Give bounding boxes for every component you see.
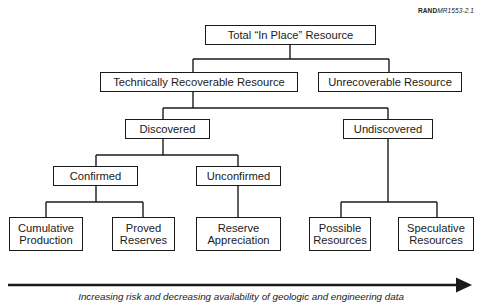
node-unconfirmed: Unconfirmed <box>196 166 281 186</box>
node-speculative-resources: Speculative Resources <box>398 217 474 251</box>
node-unrecoverable-resource: Unrecoverable Resource <box>318 72 462 92</box>
node-reserve-appreciation: Reserve Appreciation <box>196 217 281 251</box>
node-technically-recoverable-resource: Technically Recoverable Resource <box>100 72 298 92</box>
node-possible-resources: Possible Resources <box>309 217 371 251</box>
node-confirmed: Confirmed <box>53 166 138 186</box>
connector-lines <box>0 0 482 305</box>
node-undiscovered: Undiscovered <box>343 119 433 139</box>
node-total-in-place-resource: Total “In Place” Resource <box>205 25 376 45</box>
node-proved-reserves: Proved Reserves <box>112 217 175 251</box>
node-cumulative-production: Cumulative Production <box>9 217 83 251</box>
node-discovered: Discovered <box>125 119 210 139</box>
arrow-caption: Increasing risk and decreasing availabil… <box>0 291 482 302</box>
